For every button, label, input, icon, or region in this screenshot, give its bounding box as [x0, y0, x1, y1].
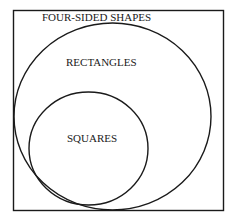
rectangles-ellipse — [14, 23, 211, 210]
squares-ellipse — [29, 92, 148, 205]
squares-label: SQUARES — [67, 132, 117, 144]
rectangles-label: RECTANGLES — [66, 56, 137, 68]
four-sided-shapes-label: FOUR-SIDED SHAPES — [42, 11, 151, 23]
venn-diagram: FOUR-SIDED SHAPES RECTANGLES SQUARES — [0, 0, 232, 220]
